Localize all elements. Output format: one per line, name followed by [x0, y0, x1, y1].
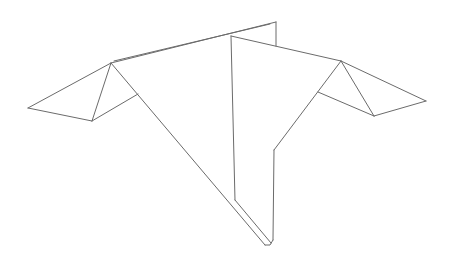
- wireframe-diagram: [0, 0, 450, 263]
- body-left-diagonal: [111, 63, 265, 245]
- front-fin-top: [231, 36, 341, 61]
- front-fin-vertical: [231, 36, 235, 200]
- front-fin-bottom-diagonal: [235, 200, 271, 243]
- left-wing-inner-edge: [92, 94, 138, 121]
- body-right-vertical: [273, 150, 274, 240]
- right-wing-inner-edge: [318, 92, 374, 116]
- body-right-diagonal: [274, 61, 341, 150]
- right-wing-bottom-edge: [374, 101, 426, 116]
- wireframe-svg: [0, 0, 450, 263]
- top-ridge-inner: [114, 24, 270, 61]
- left-wing-bottom-edge: [28, 108, 92, 121]
- right-wing-top-edge: [341, 61, 426, 101]
